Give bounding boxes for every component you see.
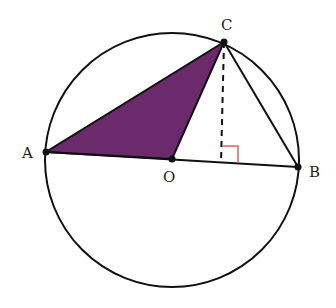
right-angle-marker bbox=[222, 146, 238, 163]
point-B bbox=[295, 164, 302, 171]
point-O bbox=[169, 156, 176, 163]
point-A bbox=[43, 149, 50, 156]
label-B: B bbox=[309, 163, 320, 181]
altitude-dashed bbox=[221, 42, 224, 163]
shaded-triangle-AOC bbox=[46, 42, 224, 159]
label-C: C bbox=[221, 16, 232, 34]
label-A: A bbox=[21, 144, 33, 162]
geometry-diagram: A O B C bbox=[0, 0, 336, 308]
point-C bbox=[221, 39, 228, 46]
label-O: O bbox=[163, 168, 175, 186]
